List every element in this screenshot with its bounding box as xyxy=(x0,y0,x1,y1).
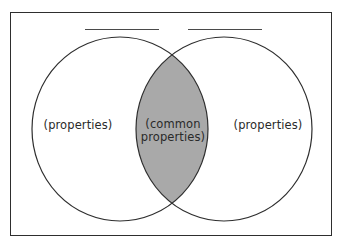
intersection-label-line2: properties) xyxy=(138,131,208,144)
left-set-label: (properties) xyxy=(38,119,118,132)
left-title-blank-line xyxy=(85,29,159,30)
right-set-label: (properties) xyxy=(228,119,308,132)
right-title-blank-line xyxy=(188,29,262,30)
intersection-label: (common properties) xyxy=(138,118,208,144)
